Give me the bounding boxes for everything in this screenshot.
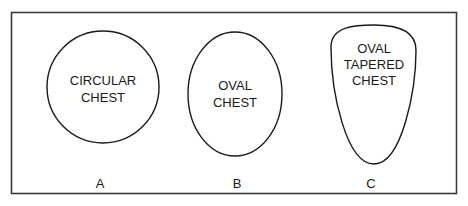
panel-c-label-line-1: OVAL [357,41,391,56]
chest-shape-diagram: CIRCULAR CHEST A OVAL CHEST B OVAL TAPER… [0,0,468,206]
panel-b-letter: B [233,176,242,191]
panel-c-letter: C [366,176,375,191]
panel-b-label-line-1: OVAL [218,78,252,93]
panel-c: OVAL TAPERED CHEST C [331,25,416,191]
panel-a-label-line-1: CIRCULAR [70,73,136,88]
panel-a-label-line-2: CHEST [81,90,125,105]
panel-c-label-line-2: TAPERED [344,57,404,72]
panel-a: CIRCULAR CHEST A [47,31,159,191]
panel-b: OVAL CHEST B [188,32,282,191]
panel-a-letter: A [96,176,105,191]
oval-chest-shape [188,32,282,156]
panel-b-label-line-2: CHEST [213,95,257,110]
panel-c-label-line-3: CHEST [352,73,396,88]
